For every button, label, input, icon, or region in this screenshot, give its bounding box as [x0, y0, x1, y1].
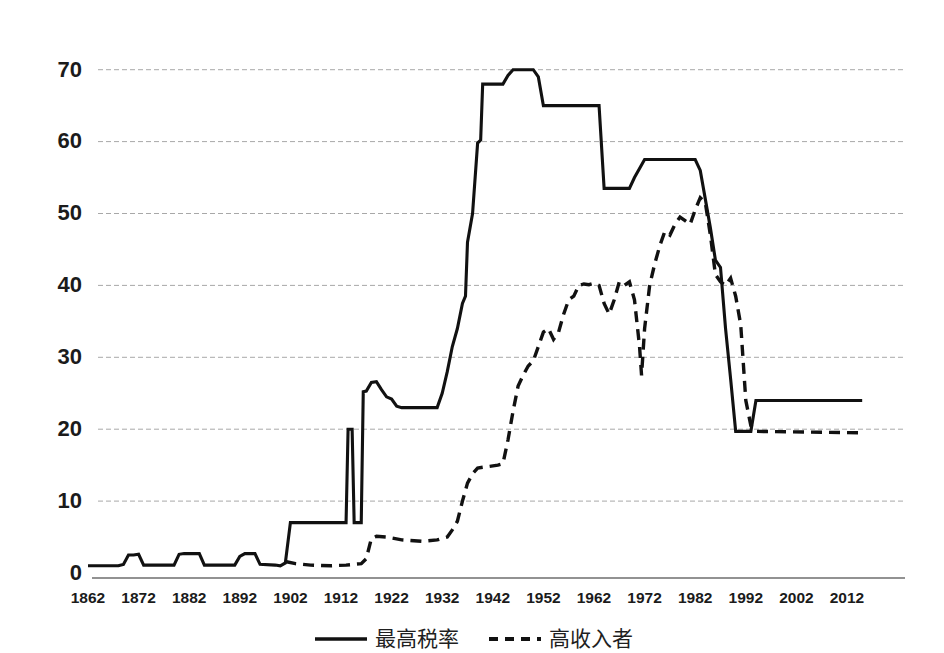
x-tick-label-1932: 1932 — [425, 589, 459, 606]
y-tick-label-40: 40 — [58, 272, 82, 297]
x-tick-label-1912: 1912 — [324, 589, 358, 606]
x-tick-label-2012: 2012 — [830, 589, 864, 606]
x-tick-label-1962: 1962 — [577, 589, 611, 606]
x-tick-label-2002: 2002 — [779, 589, 813, 606]
y-tick-label-60: 60 — [58, 128, 82, 153]
chart-container: 706050403020100 186218721882189219021912… — [0, 0, 944, 653]
y-tick-label-20: 20 — [58, 416, 82, 441]
y-tick-label-10: 10 — [58, 488, 82, 513]
y-tick-label-30: 30 — [58, 344, 82, 369]
chart-background — [0, 0, 944, 653]
tax-rate-line-chart: 706050403020100 186218721882189219021912… — [0, 0, 944, 653]
y-tick-label-50: 50 — [58, 200, 82, 225]
x-tick-label-1902: 1902 — [273, 589, 307, 606]
x-tick-label-1942: 1942 — [476, 589, 510, 606]
x-tick-label-1992: 1992 — [729, 589, 763, 606]
x-tick-label-1892: 1892 — [223, 589, 257, 606]
legend-label-1: 最高税率 — [375, 627, 459, 651]
x-tick-label-1862: 1862 — [71, 589, 105, 606]
x-tick-label-1872: 1872 — [121, 589, 155, 606]
x-tick-label-1972: 1972 — [627, 589, 661, 606]
x-tick-label-1922: 1922 — [374, 589, 408, 606]
legend-label-2: 高收入者 — [549, 627, 633, 651]
x-tick-label-1882: 1882 — [172, 589, 206, 606]
y-tick-label-0: 0 — [70, 560, 82, 585]
y-tick-label-70: 70 — [58, 57, 82, 82]
x-tick-label-1982: 1982 — [678, 589, 712, 606]
x-tick-label-1952: 1952 — [526, 589, 560, 606]
